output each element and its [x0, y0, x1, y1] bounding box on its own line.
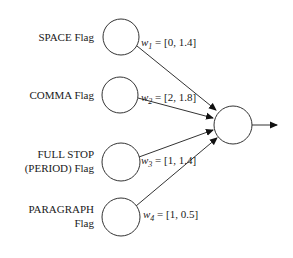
- input-label-fullstop-line1: FULL STOP: [37, 148, 94, 160]
- weight-label-4: w4 = [1, 0.5]: [143, 208, 198, 223]
- input-label-fullstop-line2: (PERIOD) Flag: [25, 162, 95, 175]
- perceptron-diagram: SPACE Flag COMMA Flag FULL STOP (PERIOD)…: [0, 0, 293, 258]
- input-node-comma: [102, 77, 138, 113]
- input-label-space: SPACE Flag: [38, 31, 94, 43]
- edge-fullstop-to-output: [139, 130, 213, 157]
- input-node-paragraph: [102, 198, 140, 236]
- output-node: [214, 106, 252, 144]
- weight-label-2: w2 = [2, 1.8]: [141, 91, 196, 106]
- input-label-comma: COMMA Flag: [30, 89, 95, 101]
- edge-paragraph-to-output: [136, 138, 217, 206]
- input-node-fullstop: [102, 143, 140, 181]
- input-label-paragraph-line2: Flag: [74, 217, 94, 229]
- weight-label-3: w3 = [1, 1.4]: [141, 154, 196, 169]
- input-label-paragraph-line1: PARAGRAPH: [28, 203, 94, 215]
- weight-label-1: w1 = [0, 1.4]: [141, 36, 196, 51]
- input-node-space: [103, 19, 139, 55]
